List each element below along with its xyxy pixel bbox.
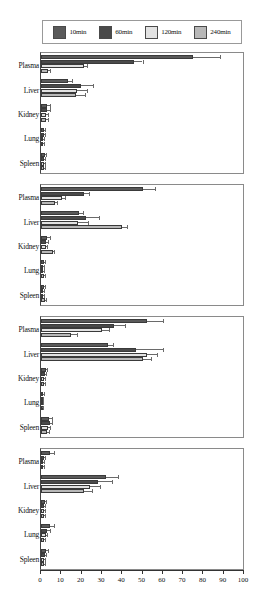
x-axis-tick-label: 60 xyxy=(158,576,165,584)
bar-liver-60min xyxy=(41,348,136,352)
legend-label: 10min xyxy=(69,28,86,36)
error-bar-cap xyxy=(45,162,46,166)
bar-plasma-10min xyxy=(41,55,193,59)
bar-row xyxy=(41,240,243,244)
error-bar xyxy=(193,57,219,58)
bar-liver-240min xyxy=(41,93,76,97)
bar-row xyxy=(41,368,243,372)
bar-row xyxy=(41,392,243,396)
bar-row xyxy=(41,353,243,357)
bar-row xyxy=(41,319,243,323)
error-bar-cap xyxy=(45,133,46,137)
bar-plasma-120min xyxy=(41,328,102,332)
bar-row xyxy=(41,357,243,361)
bar-liver-10min xyxy=(41,475,106,479)
y-axis-label-spleen: Spleen xyxy=(20,290,39,299)
error-bar-cap xyxy=(43,397,44,401)
y-axis-label-liver: Liver xyxy=(24,349,39,358)
y-axis-label-plasma: Plasma xyxy=(19,61,39,70)
bar-liver-120min xyxy=(41,221,78,225)
bar-row xyxy=(41,465,243,469)
bar-row xyxy=(41,553,243,557)
bar-row xyxy=(41,260,243,264)
error-bar-cap xyxy=(93,84,94,88)
error-bar-cap xyxy=(44,269,45,273)
y-axis-label-kidney: Kidney xyxy=(18,241,39,250)
error-bar-cap xyxy=(45,166,46,170)
error-bar-cap xyxy=(45,260,46,264)
bar-row xyxy=(41,89,243,93)
bar-row xyxy=(41,397,243,401)
bar-row xyxy=(41,538,243,542)
bar-group-kidney: Kidney xyxy=(41,500,243,520)
bar-row xyxy=(41,187,243,191)
error-bar xyxy=(147,321,163,322)
y-axis-label-lung: Lung xyxy=(24,266,39,275)
error-bar-cap xyxy=(45,538,46,542)
error-bar-cap xyxy=(50,104,51,108)
bar-row xyxy=(41,64,243,68)
error-bar xyxy=(76,95,85,96)
bar-group-liver: Liver xyxy=(41,475,243,495)
y-axis-label-plasma: Plasma xyxy=(19,457,39,466)
error-bar xyxy=(143,189,155,190)
y-axis-label-lung: Lung xyxy=(24,530,39,539)
error-bar xyxy=(86,217,99,218)
error-bar-cap xyxy=(54,524,55,528)
error-bar-cap xyxy=(112,480,113,484)
error-bar-cap xyxy=(118,475,119,479)
error-bar-cap xyxy=(50,236,51,240)
bar-row xyxy=(41,451,243,455)
error-bar-cap xyxy=(46,500,47,504)
bar-row xyxy=(41,142,243,146)
bar-spleen-60min xyxy=(41,421,50,425)
error-bar-cap xyxy=(54,250,55,254)
x-axis-tick-label: 0 xyxy=(38,576,42,584)
error-bar xyxy=(114,325,125,326)
error-bar-cap xyxy=(44,460,45,464)
error-bar-cap xyxy=(46,298,47,302)
error-bar-cap xyxy=(45,509,46,513)
y-axis-label-kidney: Kidney xyxy=(18,109,39,118)
error-bar-cap xyxy=(89,192,90,196)
bar-row xyxy=(41,377,243,381)
bar-liver-10min xyxy=(41,211,79,215)
y-axis-label-spleen: Spleen xyxy=(20,422,39,431)
error-bar xyxy=(143,359,151,360)
error-bar-cap xyxy=(44,465,45,469)
error-bar xyxy=(136,349,162,350)
bar-liver-60min xyxy=(41,480,98,484)
bar-group-lung: Lung xyxy=(41,128,243,148)
bar-row xyxy=(41,504,243,508)
bar-liver-120min xyxy=(41,485,90,489)
error-bar-cap xyxy=(157,353,158,357)
error-bar-cap xyxy=(46,553,47,557)
panel-plot-area: PlasmaLiverKidneyLungSpleen xyxy=(41,185,243,305)
legend-swatch-icon xyxy=(99,26,112,39)
bar-row xyxy=(41,489,243,493)
bar-row xyxy=(41,500,243,504)
y-axis-label-liver: Liver xyxy=(24,85,39,94)
error-bar-cap xyxy=(46,372,47,376)
bar-row xyxy=(41,166,243,170)
error-bar-cap xyxy=(52,421,53,425)
chart-panel-3: PlasmaLiverKidneyLungSpleen xyxy=(40,316,244,438)
error-bar-cap xyxy=(45,128,46,132)
y-axis-label-kidney: Kidney xyxy=(18,505,39,514)
bar-row xyxy=(41,533,243,537)
error-bar-cap xyxy=(44,289,45,293)
legend-swatch-icon xyxy=(194,26,207,39)
legend-label: 240min xyxy=(210,28,230,36)
error-bar-cap xyxy=(85,93,86,97)
error-bar-cap xyxy=(50,529,51,533)
bar-row xyxy=(41,480,243,484)
bar-plasma-10min xyxy=(41,451,50,455)
biodistribution-figure: 10min60min120min240min 01020304050607080… xyxy=(0,0,253,604)
bar-group-kidney: Kidney xyxy=(41,104,243,124)
bar-plasma-240min xyxy=(41,333,71,337)
bar-row xyxy=(41,269,243,273)
bar-row xyxy=(41,250,243,254)
bar-row xyxy=(41,265,243,269)
bar-liver-240min xyxy=(41,225,122,229)
x-axis-tick-label: 40 xyxy=(118,576,125,584)
